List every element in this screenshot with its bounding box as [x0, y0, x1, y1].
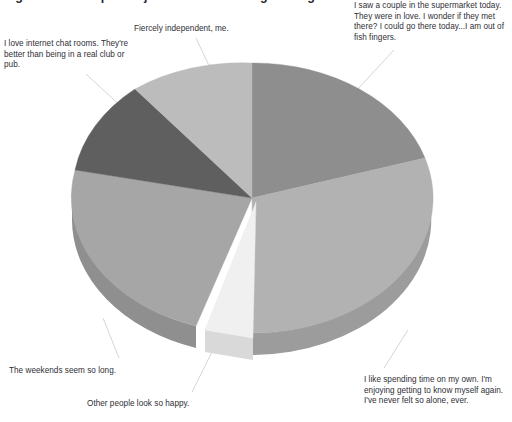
leader-line-spendtime: [384, 330, 408, 368]
callout-label-supermarket: I saw a couple in the supermarket today.…: [354, 1, 508, 43]
callout-label-fiercely: Fiercely independent, me.: [134, 24, 274, 35]
callout-label-otherpeople: Other people look so happy.: [87, 399, 237, 410]
callout-label-spendtime: I like spending time on my own. I'm enjo…: [364, 375, 512, 407]
callout-label-chatrooms: I love internet chat rooms. They're bett…: [4, 39, 132, 71]
leader-line-supermarket: [355, 50, 394, 92]
callout-label-weekends: The weekends seem so long.: [9, 366, 159, 377]
chart-canvas: Figure 4: Self-reported justifications o…: [0, 0, 512, 422]
leader-line-weekends: [103, 318, 119, 358]
